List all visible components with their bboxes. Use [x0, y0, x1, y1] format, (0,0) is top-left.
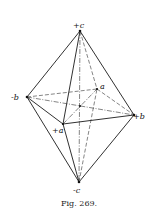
edge-plus-c-plus-b: [80, 31, 134, 115]
edge-minus-c-minus-a: [79, 89, 97, 182]
edge-minus-b-minus-a: [27, 89, 97, 97]
vertex-plus-a: [62, 123, 64, 125]
vertex-minus-b: [26, 96, 29, 99]
label-plus-a: +a: [52, 126, 64, 135]
edge-plus-a-plus-b: [63, 115, 134, 124]
vertex-dots: [26, 30, 136, 184]
vertex-minus-a: [96, 88, 98, 90]
edge-plus-c-minus-a: [80, 31, 97, 89]
label-minus-b: -b: [11, 93, 19, 102]
edge-plus-c-minus-b: [27, 31, 80, 97]
vertex-center: [79, 105, 81, 107]
label-minus-a: a: [100, 82, 105, 91]
edge-minus-c-plus-a: [63, 124, 79, 182]
edge-minus-a-plus-b: [97, 89, 134, 115]
edge-minus-c-plus-b: [79, 115, 134, 182]
label-plus-b: +b: [133, 112, 145, 121]
edge-minus-b-plus-a: [27, 97, 63, 124]
edge-plus-c-plus-a: [63, 31, 80, 124]
figure-caption: Fig. 269.: [61, 199, 97, 208]
vertex-plus-c: [79, 30, 82, 33]
octahedron-figure: +c -c -b +b +a a Fig. 269.: [0, 0, 153, 216]
vertex-minus-c: [78, 181, 81, 184]
label-plus-c: +c: [73, 21, 85, 30]
vertex-labels: +c -c -b +b +a a: [11, 21, 145, 195]
label-minus-c: -c: [73, 186, 81, 195]
edge-minus-c-minus-b: [27, 97, 79, 182]
